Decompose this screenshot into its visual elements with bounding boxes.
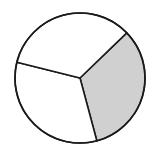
pie-chart (0, 0, 158, 147)
